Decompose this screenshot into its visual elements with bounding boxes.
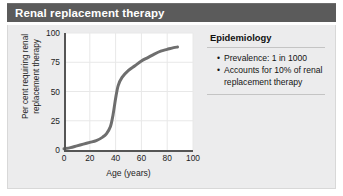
chart-y-tick-label: 100 xyxy=(46,28,60,38)
bullet-icon: • xyxy=(217,65,220,76)
list-item: •Prevalence: 1 in 1000 xyxy=(217,53,327,64)
epidemiology-heading: Epidemiology xyxy=(205,32,329,47)
panel-title-bar: Renal replacement therapy xyxy=(7,3,336,22)
chart-x-tick-label: 40 xyxy=(111,153,120,163)
chart-x-tick-label: 20 xyxy=(85,153,94,163)
chart-y-axis-label: Per cent requiring renal replacement the… xyxy=(21,14,42,140)
chart-y-tick-label: 25 xyxy=(51,116,60,126)
figure-root: Renal replacement therapy Per cent requi… xyxy=(0,0,343,196)
chart-y-tick-label: 75 xyxy=(51,57,60,67)
list-item-label: Prevalence: 1 in 1000 xyxy=(224,53,307,63)
chart-x-axis-line xyxy=(64,150,193,152)
list-item-label: Accounts for 10% of renal replacement th… xyxy=(224,65,322,86)
epidemiology-list: •Prevalence: 1 in 1000•Accounts for 10% … xyxy=(205,48,329,94)
chart-y-axis-line xyxy=(64,33,66,150)
chart-x-tick-label: 0 xyxy=(62,153,67,163)
chart: Per cent requiring renal replacement the… xyxy=(14,28,204,186)
bullet-icon: • xyxy=(217,53,220,64)
chart-x-tick-label: 60 xyxy=(137,153,146,163)
chart-plot-frame: 0255075100 020406080100 xyxy=(64,33,193,150)
list-item: •Accounts for 10% of renal replacement t… xyxy=(217,65,327,88)
divider-bottom xyxy=(207,94,325,95)
chart-y-tick-label: 50 xyxy=(51,87,60,97)
chart-x-tick-label: 100 xyxy=(186,153,200,163)
chart-curve-svg xyxy=(64,33,193,150)
epidemiology-panel: Epidemiology •Prevalence: 1 in 1000•Acco… xyxy=(205,32,329,112)
chart-x-tick-label: 80 xyxy=(163,153,172,163)
chart-y-tick-label: 0 xyxy=(55,145,60,155)
chart-x-axis-label: Age (years) xyxy=(64,168,193,178)
